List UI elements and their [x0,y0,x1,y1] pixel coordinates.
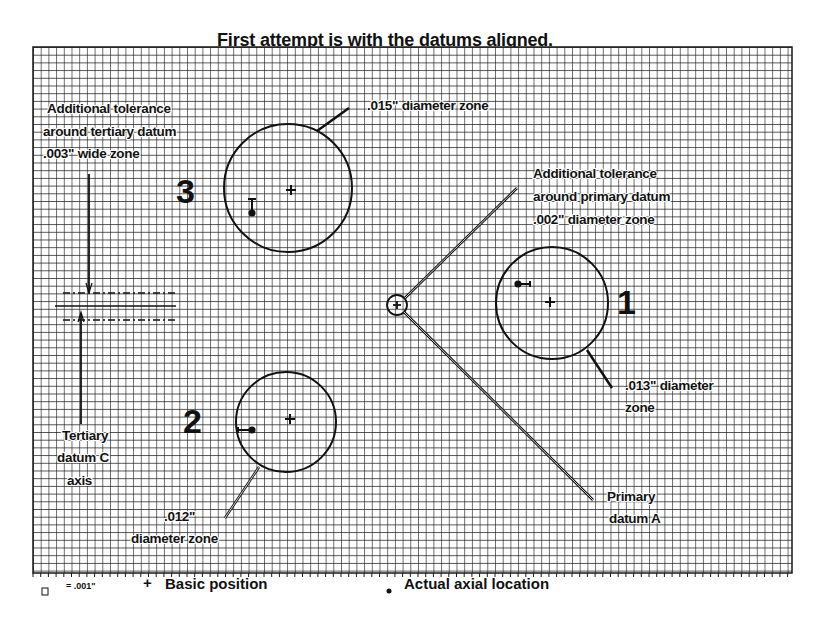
feature-number-1: 1 [617,283,636,321]
zone-label-013-line2: zone [625,400,655,415]
diagram-stage: First attempt is with the datums aligned… [0,0,820,626]
grid-square-icon [42,588,48,595]
primary-tolerance-line2: around primary datum [533,189,671,204]
legend-actual-location: Actual axial location [404,575,549,592]
tertiary-datum-line1: Tertiary [62,428,109,443]
zone-label-012-line1: .012" [164,509,195,524]
tertiary-datum-line2: datum C [57,450,109,465]
legend: = .001" + Basic position Actual axial lo… [42,574,549,595]
primary-tolerance-line1: Additional tolerance [533,166,658,181]
primary-datum-line2: datum A [609,511,661,526]
zone-label-015: .015" diameter zone [367,98,489,113]
primary-datum-line1: Primary [607,489,656,504]
zone-label-012-line2: diameter zone [131,531,219,546]
positional-tolerance-diagram: First attempt is with the datums aligned… [0,0,820,626]
dot-icon [387,589,392,594]
primary-tolerance-line3: .002" diameter zone [533,212,655,227]
feature-number-2: 2 [183,402,202,440]
tertiary-tolerance-line3: .003" wide zone [43,146,140,161]
tertiary-tolerance-line2: around tertiary datum [43,124,177,139]
plus-icon: + [143,574,152,591]
legend-grid-value: = .001" [66,581,96,591]
zone-label-013-line1: .013" diameter [625,378,715,393]
tertiary-tolerance-line1: Additional tolerance [47,101,172,116]
tertiary-datum-line3: axis [67,473,92,488]
legend-basic-position: Basic position [165,575,268,592]
feature-number-3: 3 [176,172,195,210]
